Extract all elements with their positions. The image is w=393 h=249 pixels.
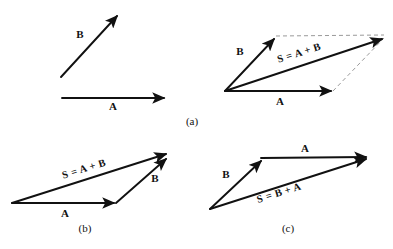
vector-diagram-canvas: B A B A S = A + B (a) A B S = A + B (b): [0, 0, 393, 249]
vector-a-arrow-c: [261, 157, 366, 158]
vector-b-arrow-a-separate: [61, 16, 117, 77]
panel-b-triangle: A B S = A + B: [12, 154, 166, 219]
panel-c-triangle: B A S = B + A: [210, 142, 366, 209]
vector-a-label-a-parallelogram: A: [276, 95, 284, 107]
panel-a-separate-vectors: B A: [61, 16, 164, 112]
vector-a-label-a-separate: A: [109, 100, 117, 112]
vector-b-label-a-separate: B: [76, 28, 84, 40]
vector-b-label-c: B: [222, 168, 230, 180]
vector-b-label-b: B: [151, 172, 159, 184]
panel-a-parallelogram: B A S = A + B: [225, 35, 384, 107]
vector-b-label-a-parallelogram: B: [236, 45, 244, 57]
panel-caption-c: (c): [282, 222, 295, 235]
vector-addition-figure: B A B A S = A + B (a) A B S = A + B (b): [0, 0, 393, 249]
vector-a-label-c: A: [301, 142, 309, 154]
vector-sum-label-c: S = B + A: [255, 181, 302, 205]
panel-caption-b: (b): [79, 222, 92, 235]
dashed-top-edge: [276, 35, 384, 36]
vector-a-label-b: A: [61, 207, 69, 219]
panel-caption-a: (a): [186, 115, 199, 128]
vector-sum-label-b: S = A + B: [61, 157, 108, 181]
